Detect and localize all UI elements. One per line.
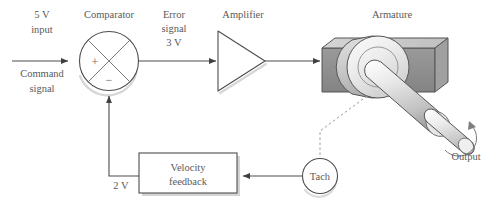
- feedback-label: feedback: [169, 176, 208, 187]
- error-signal-label: signal: [161, 23, 186, 34]
- tach-coupling-dashed-line: [320, 96, 367, 156]
- error-voltage-label: 3 V: [166, 37, 182, 48]
- feedback-return-arrow: [109, 96, 139, 176]
- comparator-minus-sign: −: [106, 73, 113, 87]
- comparator-label: Comparator: [84, 9, 135, 20]
- error-signal-group: Error signal 3 V: [139, 9, 216, 61]
- comparator-plus-sign: +: [92, 55, 99, 69]
- velocity-label: Velocity: [171, 162, 207, 173]
- diagram-canvas: 5 V input Command signal Comparator + − …: [0, 0, 498, 208]
- armature-block: Armature: [322, 9, 481, 162]
- error-label: Error: [163, 9, 186, 20]
- feedback-path-group: 2 V: [109, 96, 139, 191]
- input-voltage-label: 5 V: [34, 9, 50, 20]
- armature-label: Armature: [372, 9, 413, 20]
- input-word-label: input: [31, 24, 53, 35]
- tach-block: Tach: [243, 96, 367, 197]
- command-signal-label: signal: [29, 83, 54, 94]
- output-label: Output: [451, 151, 480, 162]
- amplifier-block: Amplifier: [218, 9, 320, 93]
- amplifier-triangle: [218, 31, 265, 91]
- command-input-group: 5 V input Command signal: [12, 9, 68, 94]
- command-label: Command: [20, 68, 64, 79]
- comparator-block: Comparator + −: [80, 9, 139, 95]
- amplifier-label: Amplifier: [222, 9, 264, 20]
- feedback-voltage-label: 2 V: [113, 180, 129, 191]
- rotation-arrowhead-icon: [468, 121, 476, 130]
- tach-label: Tach: [310, 171, 331, 182]
- armature-housing-right-face: [435, 38, 448, 92]
- velocity-feedback-box: [139, 153, 237, 193]
- servo-control-diagram: 5 V input Command signal Comparator + − …: [0, 0, 498, 208]
- velocity-feedback-block: Velocity feedback: [139, 153, 240, 196]
